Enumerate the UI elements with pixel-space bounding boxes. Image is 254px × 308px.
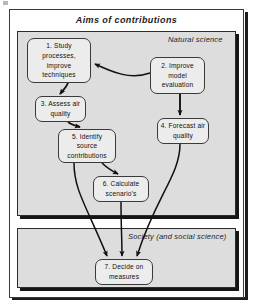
- natural-science-panel-label: Natural science: [168, 35, 223, 44]
- diagram-canvas: Aims of contributions Natural science So…: [0, 0, 254, 308]
- node-identify-source-contributions[interactable]: 5. Identify source contributions: [58, 129, 116, 163]
- outer-frame-shadow-right: [245, 12, 248, 300]
- node-study-processes[interactable]: 1. Study processes, improve techniques: [27, 38, 91, 83]
- node-improve-model-evaluation[interactable]: 2. Improve model evaluation: [150, 57, 205, 94]
- node-decide-on-measures[interactable]: 7. Decide on measures: [95, 259, 153, 285]
- diagram-title: Aims of contributions: [10, 11, 243, 28]
- natural-science-panel-shadow-bottom: [20, 216, 239, 219]
- node-forecast-air-quality[interactable]: 4. Forecast air quality: [157, 118, 209, 144]
- society-panel-shadow-bottom: [20, 288, 239, 291]
- society-panel-label: Society (and social science): [128, 232, 227, 241]
- scan-artifact-mark: [3, 1, 8, 5]
- natural-science-panel-shadow-right: [236, 34, 239, 219]
- society-panel-shadow-right: [236, 231, 239, 291]
- node-assess-air-quality[interactable]: 3. Assess air quality: [35, 96, 86, 122]
- node-calculate-scenarios[interactable]: 6. Calculate scenario's: [93, 176, 149, 202]
